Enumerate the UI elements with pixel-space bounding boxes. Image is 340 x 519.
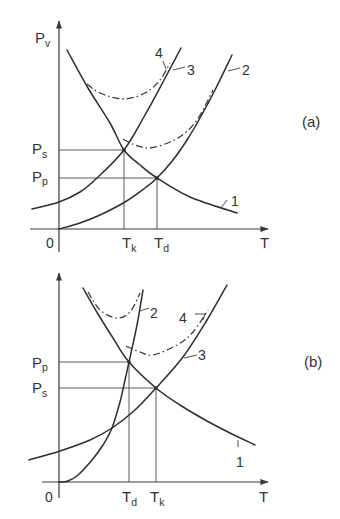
leader-4-a (163, 61, 166, 69)
ps-label-a: Ps (32, 140, 47, 160)
intersection-pp-td-a (155, 176, 159, 180)
intersection-ps-tk-b (154, 386, 158, 390)
curve-4-upper-b (88, 292, 140, 318)
ps-reference-line-b (59, 388, 156, 482)
panel-label-a: (a) (302, 113, 320, 130)
x-axis-label-b: T (259, 488, 268, 505)
leader-2-a (228, 68, 240, 71)
curve-1-a (67, 50, 237, 213)
panel-b: Pp Ps 0 Td Tk T 2 4 3 1 (b) (29, 273, 322, 508)
intersection-ps-tk-a (122, 148, 126, 152)
curve-3-a (32, 48, 181, 209)
panel-label-b: (b) (304, 353, 322, 370)
curve-label-3-a: 3 (187, 62, 195, 78)
panel-a: Pv Ps Pp 0 Tk Td T 4 3 2 1 (a) (30, 21, 320, 254)
pp-reference-line-a (59, 178, 157, 229)
curve-label-1-b: 1 (236, 454, 244, 470)
ps-label-b: Ps (32, 379, 47, 399)
td-label-b: Td (122, 488, 137, 508)
leader-2-b (140, 308, 149, 311)
curve-label-4-a: 4 (155, 45, 163, 61)
leader-1-a (221, 200, 227, 208)
y-axis-label-a: Pv (35, 29, 51, 49)
td-label-a: Td (154, 234, 169, 254)
curve-1-b (83, 288, 255, 445)
origin-label-a: 0 (46, 235, 54, 251)
curve-label-3-b: 3 (198, 347, 206, 363)
curve-label-2-b: 2 (150, 305, 158, 321)
phase-diagram-figure: Pv Ps Pp 0 Tk Td T 4 3 2 1 (a) Pp Ps 0 T… (0, 0, 340, 519)
pp-label-a: Pp (32, 168, 48, 187)
curve-label-1-a: 1 (231, 193, 239, 209)
x-axis-label-a: T (260, 234, 269, 251)
tk-label-a: Tk (122, 234, 137, 254)
leader-3-b (184, 355, 197, 358)
tk-label-b: Tk (150, 488, 165, 508)
curve-label-2-a: 2 (242, 62, 250, 78)
origin-label-b: 0 (45, 489, 53, 505)
pp-label-b: Pp (32, 354, 48, 373)
pp-reference-line-b (59, 362, 129, 482)
leader-3-a (173, 67, 185, 70)
curve-label-4-b: 4 (179, 310, 187, 326)
intersection-pp-td-b (127, 360, 131, 364)
